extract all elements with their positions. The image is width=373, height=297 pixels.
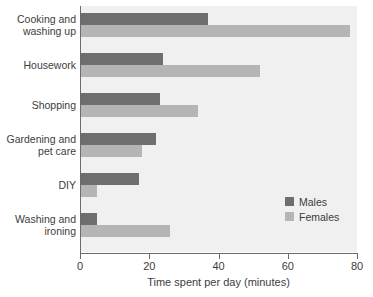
category-label-line: Shopping xyxy=(0,99,76,112)
category-label-5: Washing andironing xyxy=(0,213,76,238)
category-label-2: Shopping xyxy=(0,99,76,112)
bar-males-1 xyxy=(80,53,163,65)
x-tick-label-0: 0 xyxy=(65,259,95,273)
bar-females-1 xyxy=(80,65,260,77)
legend-swatch-females-icon xyxy=(285,212,294,221)
category-label-4: DIY xyxy=(0,179,76,192)
bar-females-4 xyxy=(80,185,97,197)
bar-chart: Cooking andwashing upHouseworkShoppingGa… xyxy=(0,0,373,297)
category-label-line: pet care xyxy=(0,145,76,158)
legend-label-males: Males xyxy=(299,196,327,208)
x-tick-label-80: 80 xyxy=(342,259,372,273)
y-axis-line xyxy=(80,6,81,254)
legend: Males Females xyxy=(281,191,344,228)
bar-females-5 xyxy=(80,225,170,237)
category-label-line: washing up xyxy=(0,25,76,38)
bar-males-2 xyxy=(80,93,160,105)
bar-females-2 xyxy=(80,105,198,117)
bar-females-3 xyxy=(80,145,142,157)
category-label-line: ironing xyxy=(0,225,76,238)
category-label-0: Cooking andwashing up xyxy=(0,13,76,38)
legend-swatch-males-icon xyxy=(285,197,294,206)
bar-females-0 xyxy=(80,25,350,37)
bar-males-5 xyxy=(80,213,97,225)
bar-males-3 xyxy=(80,133,156,145)
category-label-line: Gardening and xyxy=(0,133,76,146)
category-label-3: Gardening andpet care xyxy=(0,133,76,158)
category-label-1: Housework xyxy=(0,59,76,72)
category-label-line: DIY xyxy=(0,179,76,192)
x-axis-title: Time spent per day (minutes) xyxy=(80,276,357,288)
category-label-line: Housework xyxy=(0,59,76,72)
bar-males-0 xyxy=(80,13,208,25)
category-label-line: Cooking and xyxy=(0,13,76,26)
x-tick-label-40: 40 xyxy=(204,259,234,273)
x-tick-label-60: 60 xyxy=(273,259,303,273)
x-tick-label-20: 20 xyxy=(134,259,164,273)
bar-males-4 xyxy=(80,173,139,185)
legend-label-females: Females xyxy=(299,211,339,223)
category-label-line: Washing and xyxy=(0,213,76,226)
legend-item-males: Males xyxy=(285,194,339,209)
legend-item-females: Females xyxy=(285,209,339,224)
